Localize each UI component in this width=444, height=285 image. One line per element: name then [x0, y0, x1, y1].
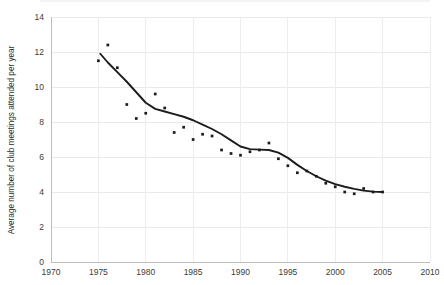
- data-point: [315, 175, 318, 178]
- data-point: [135, 117, 138, 120]
- data-point: [343, 191, 346, 194]
- x-tick-1985: 1985: [184, 267, 203, 277]
- scatter-chart: 0 2 4 6 8 10 12 14 1970 1975 1980 1985 1…: [0, 0, 444, 285]
- data-point: [324, 182, 327, 185]
- data-point: [173, 131, 176, 134]
- data-point: [268, 142, 271, 145]
- y-tick-4: 4: [39, 187, 44, 197]
- y-tick-12: 12: [35, 47, 45, 57]
- data-point: [182, 126, 185, 129]
- chart-container: 0 2 4 6 8 10 12 14 1970 1975 1980 1985 1…: [0, 0, 444, 285]
- y-tick-6: 6: [39, 152, 44, 162]
- data-point: [334, 185, 337, 188]
- data-point: [287, 164, 290, 167]
- data-point: [192, 138, 195, 141]
- x-tick-1970: 1970: [42, 267, 61, 277]
- data-point: [201, 133, 204, 136]
- y-axis-title: Average number of club meetings attended…: [7, 45, 16, 234]
- data-point: [362, 187, 365, 190]
- y-tick-0: 0: [39, 257, 44, 267]
- x-tick-1990: 1990: [231, 267, 250, 277]
- data-point: [239, 154, 242, 157]
- y-tick-14: 14: [35, 12, 45, 22]
- data-point: [116, 66, 119, 69]
- data-point: [154, 93, 157, 96]
- data-point: [381, 191, 384, 194]
- y-tick-10: 10: [35, 82, 45, 92]
- data-point: [97, 59, 100, 62]
- data-point: [163, 107, 166, 110]
- data-point: [249, 150, 252, 153]
- data-point: [372, 191, 375, 194]
- data-point: [305, 170, 308, 173]
- x-tick-1995: 1995: [278, 267, 297, 277]
- data-point: [353, 192, 356, 195]
- x-tick-1975: 1975: [89, 267, 108, 277]
- x-tick-2010: 2010: [421, 267, 440, 277]
- data-point: [258, 149, 261, 152]
- data-point: [144, 112, 147, 115]
- y-tick-labels: 0 2 4 6 8 10 12 14: [35, 12, 45, 267]
- data-point: [296, 171, 299, 174]
- clipped-title-strip: [40, 0, 430, 2]
- data-point: [230, 152, 233, 155]
- data-point: [220, 149, 223, 152]
- x-tick-2000: 2000: [326, 267, 345, 277]
- data-point: [277, 157, 280, 160]
- trend-line: [100, 54, 382, 192]
- vertical-gridlines: [98, 17, 430, 262]
- data-point: [107, 44, 110, 47]
- data-point: [125, 103, 128, 106]
- x-tick-labels: 1970 1975 1980 1985 1990 1995 2000 2005 …: [42, 267, 440, 277]
- y-tick-2: 2: [39, 222, 44, 232]
- x-tick-2005: 2005: [373, 267, 392, 277]
- x-tick-1980: 1980: [136, 267, 155, 277]
- data-point: [211, 135, 214, 138]
- y-tick-8: 8: [39, 117, 44, 127]
